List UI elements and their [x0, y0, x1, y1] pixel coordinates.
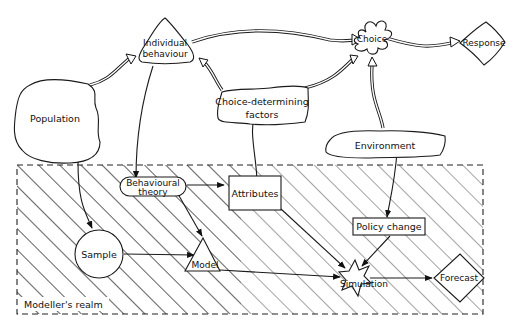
node-sample: Sample	[75, 230, 123, 278]
node-behavioural-theory: Behavioural theory	[120, 177, 186, 197]
node-population: Population	[14, 80, 100, 164]
node-choice-determining-factors: Choice-determining factors	[215, 86, 308, 125]
node-individual-behaviour-line1: Individual	[143, 38, 187, 48]
node-sample-label: Sample	[81, 249, 117, 260]
node-individual-behaviour: Individual behaviour	[139, 18, 194, 64]
node-behavioural-theory-line2: theory	[138, 187, 168, 197]
node-forecast-label: Forecast	[440, 273, 479, 283]
node-response-label: Response	[462, 38, 506, 48]
node-choice-determining-factors-line1: Choice-determining	[215, 96, 308, 107]
node-individual-behaviour-line2: behaviour	[142, 49, 188, 59]
node-policy-change-label: Policy change	[356, 221, 421, 232]
node-choice-determining-factors-line2: factors	[246, 109, 279, 120]
node-response: Response	[460, 22, 506, 65]
node-model-label: Model	[191, 260, 218, 270]
node-choice: Choice	[354, 21, 391, 54]
node-policy-change: Policy change	[353, 218, 425, 235]
node-population-label: Population	[30, 113, 80, 124]
node-simulation-label: Simulation	[340, 279, 388, 289]
node-attributes-label: Attributes	[232, 188, 279, 199]
modellers-realm-label: Modeller's realm	[24, 299, 103, 310]
diagram-canvas: Modeller's realm	[0, 0, 518, 329]
node-environment: Environment	[326, 131, 446, 158]
node-choice-label: Choice	[357, 34, 388, 44]
node-attributes: Attributes	[229, 176, 281, 210]
node-environment-label: Environment	[355, 140, 416, 151]
